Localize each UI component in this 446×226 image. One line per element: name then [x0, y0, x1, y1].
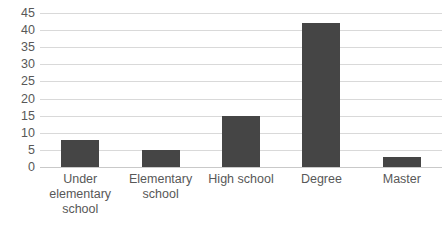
bar-master[interactable] [383, 157, 421, 167]
y-axis-tick-label: 35 [1, 41, 35, 54]
plot-area [40, 13, 442, 167]
bar-slot [40, 13, 120, 167]
bar-under-elementary-school[interactable] [61, 140, 99, 167]
bar-high-school[interactable] [222, 116, 260, 167]
y-axis-tick-label: 45 [1, 7, 35, 20]
y-axis-tick-label: 25 [1, 75, 35, 88]
y-axis: 45 40 35 30 25 20 15 10 5 0 [0, 0, 40, 180]
y-axis-tick-label: 15 [1, 109, 35, 122]
y-axis-tick-label: 10 [1, 126, 35, 139]
x-axis-tick-label-elementary-school: Elementary school [120, 172, 200, 226]
x-axis-tick-label-under-elementary-school: Under elementary school [40, 172, 120, 226]
bar-slot [201, 13, 281, 167]
bar-slot [362, 13, 442, 167]
x-axis-tick-label-high-school: High school [201, 172, 281, 226]
bar-slot [281, 13, 361, 167]
bar-slot [120, 13, 200, 167]
x-axis-tick-label-degree: Degree [281, 172, 361, 226]
y-axis-tick-label: 30 [1, 58, 35, 71]
y-axis-tick-label: 0 [1, 161, 35, 174]
bar-chart: 45 40 35 30 25 20 15 10 5 0 [0, 0, 446, 226]
x-axis: Under elementary school Elementary schoo… [40, 172, 442, 226]
bar-degree[interactable] [302, 23, 340, 167]
bar-group [40, 13, 442, 167]
y-axis-tick-label: 40 [1, 24, 35, 37]
chart-plot-wrapper: 45 40 35 30 25 20 15 10 5 0 [0, 0, 446, 226]
y-axis-tick-label: 5 [1, 144, 35, 157]
gridline-baseline [40, 167, 442, 168]
bar-elementary-school[interactable] [142, 150, 180, 167]
y-axis-tick-label: 20 [1, 92, 35, 105]
x-axis-tick-label-master: Master [362, 172, 442, 226]
